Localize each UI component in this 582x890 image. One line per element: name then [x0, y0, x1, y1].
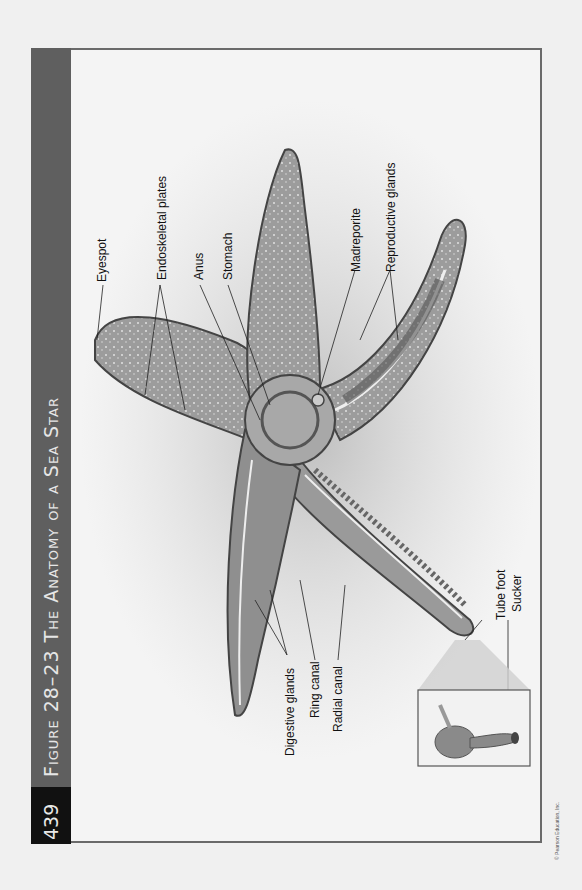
label-digestive-glands: Digestive glands — [283, 668, 297, 756]
label-eyespot: Eyespot — [95, 239, 109, 282]
label-reproductive-glands: Reproductive glands — [384, 163, 398, 272]
label-madreporite: Madreporite — [349, 208, 363, 272]
label-ring-canal: Ring canal — [308, 661, 322, 718]
label-endoskeletal-plates: Endoskeletal plates — [155, 176, 169, 280]
copyright-notice: © Pearson Education, Inc. — [554, 802, 560, 860]
label-radial-canal: Radial canal — [331, 666, 345, 732]
label-tube-foot: Tube foot — [494, 570, 508, 620]
label-anus: Anus — [192, 253, 206, 280]
label-sucker: Sucker — [510, 575, 524, 612]
sea-star-illustration — [0, 0, 582, 890]
label-stomach: Stomach — [221, 233, 235, 280]
tube-foot-inset — [418, 690, 530, 766]
